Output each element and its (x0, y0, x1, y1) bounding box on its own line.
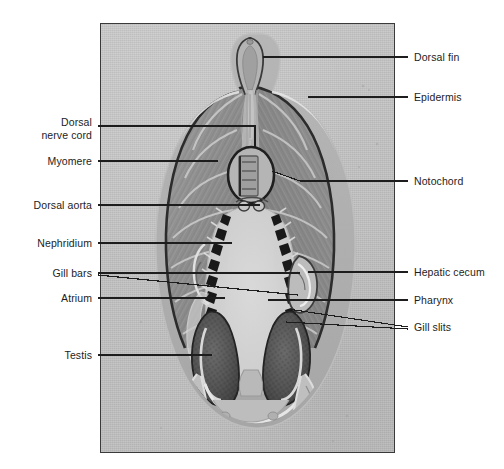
label-pharynx: Pharynx (414, 294, 453, 307)
label-gill-slits: Gill slits (414, 321, 451, 334)
label-testis: Testis (65, 349, 92, 362)
label-notochord: Notochord (414, 175, 463, 188)
label-epidermis: Epidermis (414, 91, 462, 104)
label-hepatic-cecum: Hepatic cecum (414, 266, 485, 279)
figure-container: Dorsal nerve cord Myomere Dorsal aorta N… (0, 0, 504, 469)
label-myomere: Myomere (48, 155, 92, 168)
label-dorsal-nerve-cord: Dorsal nerve cord (41, 116, 92, 141)
label-dorsal-aorta: Dorsal aorta (34, 199, 92, 212)
specimen-photomicrograph (100, 23, 395, 453)
label-dorsal-fin: Dorsal fin (414, 51, 459, 64)
label-nephridium: Nephridium (37, 237, 92, 250)
label-atrium: Atrium (61, 292, 92, 305)
label-gill-bars: Gill bars (53, 267, 92, 280)
specimen-drawing (101, 24, 395, 453)
